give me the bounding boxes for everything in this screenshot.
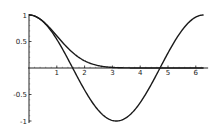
x-tick-label: 5 <box>166 69 170 77</box>
y-tick-label: -1 <box>20 118 27 126</box>
y-tick-label: 1 <box>23 12 27 20</box>
y-tick-label: 0.5 <box>16 38 27 46</box>
series-line-2 <box>29 15 204 68</box>
x-tick-label: 4 <box>138 69 143 77</box>
y-axis: 10.5-0.5-1 <box>13 12 31 126</box>
y-tick-label: -0.5 <box>13 91 27 99</box>
x-tick-label: 3 <box>110 69 114 77</box>
line-chart: 123456 10.5-0.5-1 <box>0 0 223 132</box>
x-tick-label: 2 <box>82 69 86 77</box>
x-tick-label: 1 <box>55 69 59 77</box>
x-tick-label: 6 <box>194 69 199 77</box>
